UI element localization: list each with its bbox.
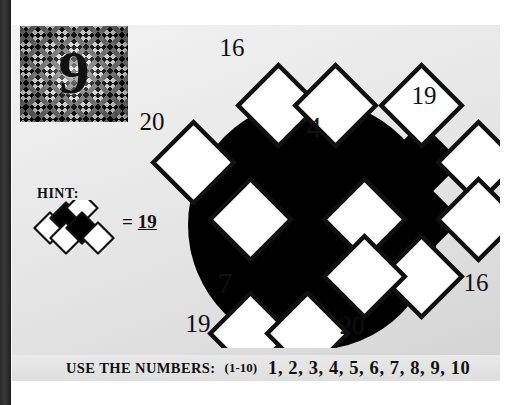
clue-upper-left: 20 [140, 108, 165, 135]
footer-range: (1-10) [225, 360, 258, 376]
puzzle-number-text: 9 [20, 26, 128, 122]
puzzle-number-badge: 9 [20, 26, 128, 122]
cell-given-7: 7 [218, 266, 233, 299]
clue-bottom-left: 19 [186, 310, 211, 337]
clue-top-left: 16 [220, 34, 245, 61]
hint-equals-sign: = [122, 211, 133, 232]
cell-given-4: 4 [307, 110, 322, 143]
footer-number-list: 1, 2, 3, 4, 5, 6, 7, 8, 9, 10 [268, 358, 470, 379]
cell-empty-4[interactable] [438, 179, 500, 260]
clue-right: 16 [464, 269, 489, 296]
scan-binding-edge [0, 0, 11, 405]
puzzle-grid: 4 7 16 20 19 16 20 19 [140, 28, 500, 348]
footer-bar: USE THE NUMBERS: (1-10) 1, 2, 3, 4, 5, 6… [12, 355, 500, 381]
clue-bottom-right: 20 [340, 312, 365, 339]
puzzle-page: 9 HINT: =19 [0, 0, 522, 405]
footer-label: USE THE NUMBERS: [66, 360, 216, 377]
puzzle-grid-svg: 4 7 16 20 19 16 20 19 [140, 28, 500, 348]
clue-top-right: 19 [412, 82, 437, 109]
